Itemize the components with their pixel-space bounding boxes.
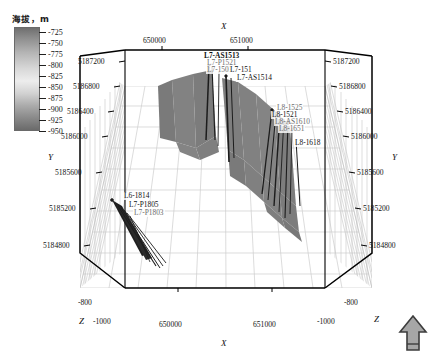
well-label-l7-p1803: L7-P1803 xyxy=(133,209,165,217)
axis-tick-y-left: 5185600 xyxy=(55,168,82,177)
axis-tick-x-bottom: 650000 xyxy=(159,320,182,329)
axis-tick-z-right: -800 xyxy=(344,298,358,307)
axis-tick-y-right: 5186400 xyxy=(345,107,372,116)
axis-tick-x-top: 651000 xyxy=(230,36,253,45)
well-label-l7-as1514: L7-AS1514 xyxy=(236,74,273,82)
axis-label-y-right: Y xyxy=(392,152,397,162)
well-label-l6-1814: L6-1814 xyxy=(123,192,150,200)
axis-tick-z-right: -1000 xyxy=(317,317,335,326)
plot-area-3d: X 650000 651000 X 650000 651000 Y 518720… xyxy=(0,0,436,358)
axis-label-z-left: Z xyxy=(79,316,84,326)
north-arrow-icon xyxy=(396,314,430,354)
axis-label-x-bottom: X xyxy=(221,338,227,348)
axis-tick-y-left: 5186800 xyxy=(73,82,100,91)
axis-tick-y-left: 5185200 xyxy=(49,204,76,213)
axis-tick-y-right: 5186800 xyxy=(339,82,366,91)
axis-tick-y-right: 5185200 xyxy=(363,204,390,213)
axis-tick-x-top: 650000 xyxy=(143,36,166,45)
well-label-l8-1618: L8-1618 xyxy=(294,139,321,147)
axis-tick-z-left: -1000 xyxy=(93,317,111,326)
axis-tick-y-right: 5184800 xyxy=(369,241,396,250)
axis-tick-y-left: 5186000 xyxy=(61,132,88,141)
axis-tick-y-left: 5187200 xyxy=(78,57,105,66)
well-label-l8-1651: L8-1651 xyxy=(278,125,305,133)
axis-tick-y-right: 5187200 xyxy=(333,57,360,66)
axis-tick-x-bottom: 651000 xyxy=(253,320,276,329)
figure-3d-fault-wells: 海拔，m -725 -750 -775 -800 -825 -850 -875 … xyxy=(0,0,436,358)
axis-label-y-left: Y xyxy=(48,152,53,162)
axis-tick-y-left: 5186400 xyxy=(67,107,94,116)
axis-label-x-top: X xyxy=(221,21,227,31)
axis-label-z-right: Z xyxy=(374,314,379,324)
axis-tick-z-left: -800 xyxy=(78,298,92,307)
axis-tick-y-right: 5186000 xyxy=(351,132,378,141)
axis-tick-y-left: 5184800 xyxy=(43,241,70,250)
axis-tick-y-right: 5185600 xyxy=(357,168,384,177)
